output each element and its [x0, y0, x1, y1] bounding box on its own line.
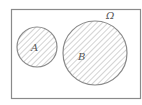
venn-diagram: A B Ω — [0, 0, 142, 105]
set-a-label: A — [30, 42, 38, 53]
set-b-label: B — [77, 51, 85, 62]
universe-label: Ω — [105, 10, 114, 21]
set-b-circle — [63, 21, 127, 85]
